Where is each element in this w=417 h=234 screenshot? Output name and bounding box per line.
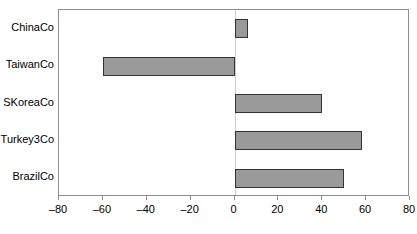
x-tick-mark <box>58 196 59 200</box>
category-label-brazilco: BrazilCo <box>0 171 54 182</box>
plot-inner <box>59 10 408 195</box>
x-tick-mark <box>365 196 366 200</box>
x-tick-label: –60 <box>93 203 111 215</box>
category-label-taiwanco: TaiwanCo <box>0 59 54 70</box>
x-tick-mark <box>321 196 322 200</box>
category-axis: ChinaCo TaiwanCo SKoreaCo Turkey3Co Braz… <box>0 9 54 196</box>
category-label-skoreaco: SKoreaCo <box>0 97 54 108</box>
x-tick-label: 80 <box>403 203 415 215</box>
category-label-turkey3co: Turkey3Co <box>0 134 54 145</box>
x-tick-label: 20 <box>271 203 283 215</box>
x-tick-label: 40 <box>315 203 327 215</box>
bar-chinaco <box>235 19 248 38</box>
x-tick-label: –80 <box>49 203 67 215</box>
x-tick-mark <box>190 196 191 200</box>
bar-taiwanco <box>103 57 235 76</box>
x-axis: –80–60–40–20020406080 <box>58 196 409 234</box>
bar-chart: ChinaCo TaiwanCo SKoreaCo Turkey3Co Braz… <box>0 0 417 234</box>
bar-brazilco <box>235 169 345 188</box>
bar-turkey3co <box>235 131 362 150</box>
x-tick-label: –20 <box>180 203 198 215</box>
x-tick-mark <box>234 196 235 200</box>
x-tick-label: 0 <box>230 203 236 215</box>
category-label-chinaco: ChinaCo <box>0 22 54 33</box>
plot-area <box>58 9 409 196</box>
x-tick-mark <box>102 196 103 200</box>
x-tick-label: 60 <box>359 203 371 215</box>
x-tick-mark <box>146 196 147 200</box>
x-tick-mark <box>409 196 410 200</box>
bar-skoreaco <box>235 94 323 113</box>
x-tick-label: –40 <box>137 203 155 215</box>
x-tick-mark <box>277 196 278 200</box>
